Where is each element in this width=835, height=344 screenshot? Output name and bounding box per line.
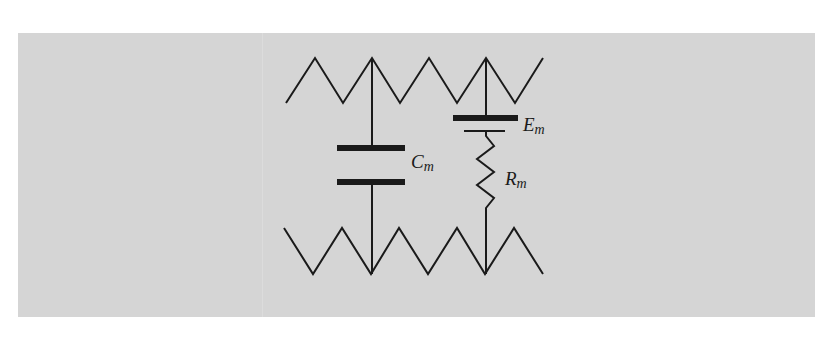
- capacitor-plate-top: [337, 145, 405, 151]
- battery-label: Em: [523, 115, 545, 134]
- battery-plate-long: [453, 115, 518, 121]
- top-zigzag-wire: [286, 58, 543, 103]
- resistor-zigzag: [477, 131, 494, 274]
- resistor-label: Rm: [505, 169, 527, 188]
- battery-symbol: E: [523, 114, 535, 135]
- capacitor-plate-bottom: [337, 179, 405, 185]
- battery-resistor-branch: [453, 58, 518, 274]
- resistor-symbol: R: [505, 168, 517, 189]
- capacitor-label: Cm: [411, 152, 434, 171]
- bottom-zigzag-wire: [284, 228, 543, 274]
- battery-subscript: m: [535, 122, 545, 137]
- circuit-diagram: [0, 0, 835, 344]
- resistor-subscript: m: [517, 176, 527, 191]
- capacitor-branch: [337, 58, 405, 274]
- capacitor-symbol: C: [411, 151, 424, 172]
- capacitor-subscript: m: [424, 159, 434, 174]
